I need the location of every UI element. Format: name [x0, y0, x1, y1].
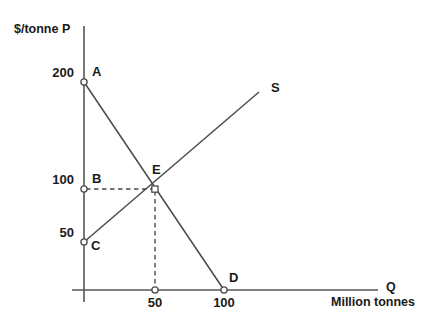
x-tick-label-100: 100 — [204, 296, 244, 309]
point-marker-a — [81, 79, 87, 85]
diagram-canvas — [0, 0, 446, 325]
point-marker-c — [81, 239, 87, 245]
y-axis-title: $/tonne P — [14, 23, 70, 36]
point-label-d: D — [229, 271, 238, 284]
point-label-a: A — [92, 65, 101, 78]
x-axis-unit-label: Million tonnes — [331, 296, 415, 309]
point-marker-d — [221, 287, 227, 293]
y-tick-label-100: 100 — [22, 173, 74, 186]
x-tick-marker-50 — [152, 287, 158, 293]
supply-demand-diagram: $/tonne P 200 100 50 50 100 Q Million to… — [0, 0, 446, 325]
y-tick-label-200: 200 — [22, 66, 74, 79]
x-tick-label-50: 50 — [135, 296, 175, 309]
point-label-b: B — [92, 172, 101, 185]
x-axis-title: Q — [386, 281, 396, 294]
supply-curve-label: S — [271, 81, 280, 94]
point-label-e: E — [152, 163, 161, 176]
supply-curve — [84, 92, 259, 242]
point-marker-e — [152, 186, 158, 192]
point-label-c: C — [91, 239, 100, 252]
point-marker-b — [81, 186, 87, 192]
y-tick-label-50: 50 — [22, 226, 74, 239]
